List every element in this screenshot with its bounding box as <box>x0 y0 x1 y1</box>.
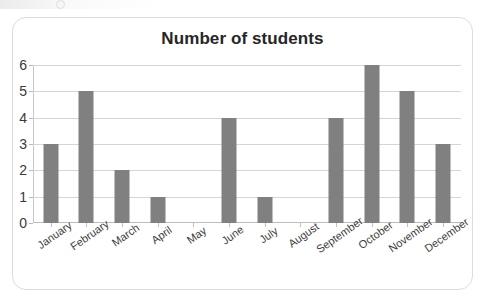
y-axis-tick-label: 6 <box>19 58 27 72</box>
x-axis-label-slot: November <box>390 226 426 288</box>
bar-slot <box>425 65 461 223</box>
chart-title: Number of students <box>13 29 472 49</box>
bar-slot <box>283 65 319 223</box>
bar[interactable] <box>115 170 130 223</box>
x-axis-tick-label: June <box>219 223 245 247</box>
bar[interactable] <box>222 118 237 223</box>
y-axis-tick-label: 2 <box>19 163 27 177</box>
x-axis-tick-label: May <box>185 224 209 246</box>
bar[interactable] <box>43 144 58 223</box>
x-axis-label-slot: October <box>354 226 390 288</box>
x-axis-label-slot: December <box>425 226 461 288</box>
bar[interactable] <box>329 118 344 223</box>
x-axis-label-slot: April <box>140 226 176 288</box>
y-axis-tick-label: 3 <box>19 137 27 151</box>
bar-series <box>33 65 461 223</box>
bar-slot <box>33 65 69 223</box>
y-axis-tick-label: 1 <box>19 190 27 204</box>
bar[interactable] <box>79 91 94 223</box>
bar[interactable] <box>364 65 379 223</box>
bar[interactable] <box>150 197 165 223</box>
bar-slot <box>318 65 354 223</box>
bar-slot <box>69 65 105 223</box>
bar[interactable] <box>436 144 451 223</box>
scan-artifact-mark <box>56 0 65 9</box>
x-axis-tick-labels: JanuaryFebruaryMarchAprilMayJuneJulyAugu… <box>33 226 461 288</box>
y-axis-tick-label: 0 <box>19 216 27 230</box>
x-axis-label-slot: January <box>33 226 69 288</box>
x-axis-label-slot: February <box>69 226 105 288</box>
x-axis-tick-label: April <box>149 224 174 246</box>
x-axis-label-slot: May <box>176 226 212 288</box>
bar-slot <box>354 65 390 223</box>
x-axis-label-slot: July <box>247 226 283 288</box>
y-axis-tick-label: 5 <box>19 84 27 98</box>
bar[interactable] <box>257 197 272 223</box>
plot-area: 0123456 <box>33 65 461 223</box>
bar-slot <box>140 65 176 223</box>
x-axis-label-slot: June <box>211 226 247 288</box>
x-axis-label-slot: March <box>104 226 140 288</box>
bar-slot <box>104 65 140 223</box>
scan-artifact <box>0 0 160 9</box>
bar-slot <box>211 65 247 223</box>
chart-card: Number of students 0123456 JanuaryFebrua… <box>12 17 473 290</box>
x-axis-tick-label: July <box>257 224 280 245</box>
bar-slot <box>247 65 283 223</box>
bar-slot <box>390 65 426 223</box>
x-axis-label-slot: September <box>318 226 354 288</box>
y-axis-tick-label: 4 <box>19 111 27 125</box>
y-axis-tick-mark <box>29 223 33 224</box>
x-axis-tick-label: March <box>110 221 142 248</box>
bar[interactable] <box>400 91 415 223</box>
bar-slot <box>176 65 212 223</box>
x-axis-label-slot: August <box>283 226 319 288</box>
